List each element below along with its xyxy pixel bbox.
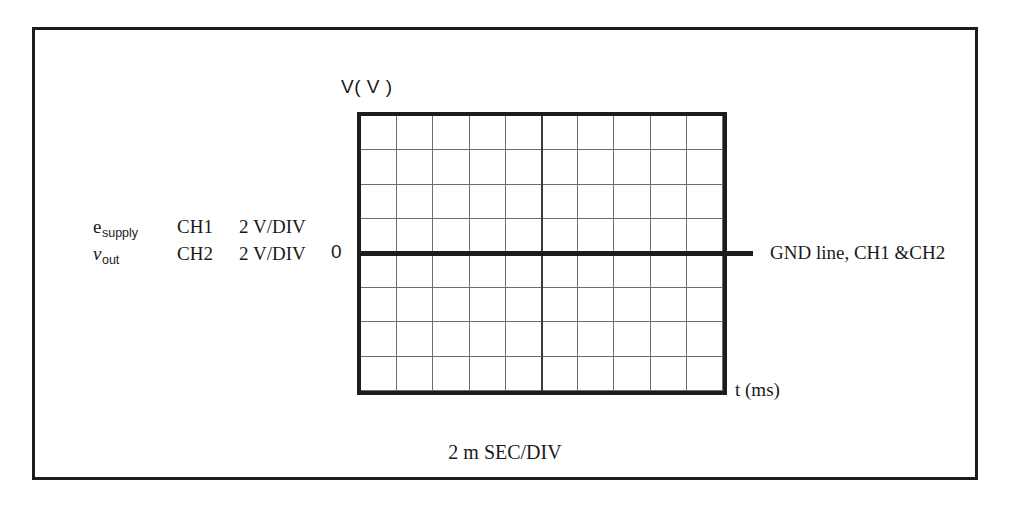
horizontal-axis-label: t (ms) <box>735 380 780 399</box>
legend-row: vout CH2 2 V/DIV <box>93 243 306 270</box>
figure-frame: V( V ) 0 GND line, CH1 &CH2 t (ms) 2 m S… <box>32 27 978 480</box>
channel-label-ch2: CH2 <box>177 243 239 265</box>
legend-row: esupply CH1 2 V/DIV <box>93 216 306 243</box>
zero-volt-marker: 0 <box>331 242 342 261</box>
channel-legend: esupply CH1 2 V/DIV vout CH2 2 V/DIV <box>93 216 306 270</box>
ground-zero-line <box>357 251 753 256</box>
ground-line-annotation: GND line, CH1 &CH2 <box>770 243 945 262</box>
signal-name-ch2: vout <box>93 243 177 265</box>
channel-label-ch1: CH1 <box>177 216 239 238</box>
volts-per-div-ch2: 2 V/DIV <box>239 243 306 265</box>
signal-base-ch1: e <box>93 216 101 237</box>
signal-name-ch1: esupply <box>93 216 177 238</box>
signal-subscript-ch2: out <box>102 253 119 267</box>
signal-base-ch2: v <box>93 243 101 264</box>
signal-subscript-ch1: supply <box>102 226 138 240</box>
volts-per-div-ch1: 2 V/DIV <box>239 216 306 238</box>
vertical-axis-label: V( V ) <box>341 77 393 96</box>
timebase-caption: 2 m SEC/DIV <box>35 442 975 462</box>
